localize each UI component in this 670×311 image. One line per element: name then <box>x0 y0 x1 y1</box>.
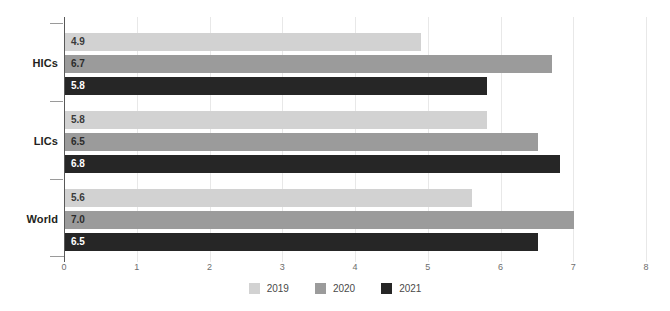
legend-swatch-2021 <box>381 283 392 294</box>
x-axis: 012345678 <box>64 262 646 278</box>
bar-lics-2021[interactable]: 6.8 <box>65 155 560 173</box>
legend-label-2020: 2020 <box>333 283 355 294</box>
bar-value-label: 5.8 <box>71 81 85 91</box>
x-tick-label-5: 5 <box>425 262 430 272</box>
x-tick-label-7: 7 <box>571 262 576 272</box>
bar-value-label: 6.7 <box>71 59 85 69</box>
bar-world-2021[interactable]: 6.5 <box>65 233 538 251</box>
x-tick-label-0: 0 <box>61 262 66 272</box>
legend-swatch-2019 <box>249 283 260 294</box>
category-label-lics: LICs <box>2 135 58 147</box>
bar-world-2019[interactable]: 5.6 <box>65 189 472 207</box>
legend-item-2019[interactable]: 2019 <box>249 283 289 294</box>
bar-lics-2019[interactable]: 5.8 <box>65 111 487 129</box>
legend-label-2019: 2019 <box>267 283 289 294</box>
legend-item-2021[interactable]: 2021 <box>381 283 421 294</box>
y-axis-tick <box>50 23 63 24</box>
legend-label-2021: 2021 <box>399 283 421 294</box>
bar-hics-2020[interactable]: 6.7 <box>65 55 552 73</box>
x-tick-label-2: 2 <box>207 262 212 272</box>
gridline-8 <box>646 17 647 262</box>
y-axis-category-labels: HICsLICsWorld <box>0 17 58 262</box>
bar-value-label: 5.8 <box>71 115 85 125</box>
x-tick-label-4: 4 <box>352 262 357 272</box>
category-label-hics: HICs <box>2 57 58 69</box>
legend-swatch-2020 <box>315 283 326 294</box>
x-tick-label-3: 3 <box>280 262 285 272</box>
bar-hics-2021[interactable]: 5.8 <box>65 77 487 95</box>
x-tick-label-1: 1 <box>134 262 139 272</box>
x-tick-label-8: 8 <box>643 262 648 272</box>
bar-hics-2019[interactable]: 4.9 <box>65 33 421 51</box>
x-tick-label-6: 6 <box>498 262 503 272</box>
bar-value-label: 6.5 <box>71 237 85 247</box>
legend: 201920202021 <box>0 283 670 294</box>
x-axis-origin-tick <box>50 256 64 257</box>
bar-world-2020[interactable]: 7.0 <box>65 211 574 229</box>
bar-lics-2020[interactable]: 6.5 <box>65 133 538 151</box>
bar-value-label: 6.5 <box>71 137 85 147</box>
bar-group-world: 5.67.06.5 <box>64 189 646 251</box>
plot-area: 4.96.75.85.86.56.85.67.06.5 <box>64 17 646 262</box>
bar-value-label: 4.9 <box>71 37 85 47</box>
bar-chart: HICsLICsWorld 4.96.75.85.86.56.85.67.06.… <box>0 0 670 311</box>
y-axis-tick <box>50 179 63 180</box>
bar-group-hics: 4.96.75.8 <box>64 33 646 95</box>
y-axis-tick <box>50 101 63 102</box>
bar-value-label: 6.8 <box>71 159 85 169</box>
bar-group-lics: 5.86.56.8 <box>64 111 646 173</box>
category-label-world: World <box>2 213 58 225</box>
bar-value-label: 7.0 <box>71 215 85 225</box>
legend-item-2020[interactable]: 2020 <box>315 283 355 294</box>
bar-value-label: 5.6 <box>71 193 85 203</box>
